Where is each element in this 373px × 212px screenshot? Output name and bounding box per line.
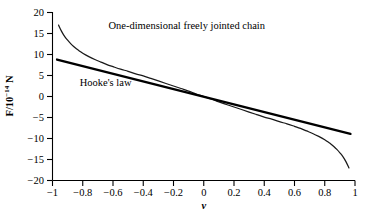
y-tick-label: 0 [39, 91, 44, 102]
y-tick-label: −20 [28, 175, 44, 186]
x-tick-label: −0.8 [73, 187, 92, 198]
y-tick-label: −10 [28, 133, 44, 144]
y-axis-title-suffix: N [4, 75, 15, 86]
chart-figure: 20 15 10 5 0 −5 −10 −15 −20 −1 [0, 0, 373, 212]
x-tick-label: 0.4 [258, 187, 272, 198]
x-tick-label: −0.4 [134, 187, 154, 198]
y-tick-label: 20 [34, 7, 45, 18]
x-tick-label: 0.6 [288, 187, 301, 198]
y-axis-title-prefix: F/10 [4, 97, 15, 117]
chart-svg: 20 15 10 5 0 −5 −10 −15 −20 −1 [0, 0, 373, 212]
x-tick-label: −0.2 [164, 187, 183, 198]
y-tick-label: 5 [39, 70, 44, 81]
x-axis-title: v [201, 200, 206, 211]
annotation-hookes-law: Hooke's law [80, 77, 132, 88]
x-tick-label: −1 [47, 187, 58, 198]
annotation-freely-jointed-chain: One-dimensional freely jointed chain [108, 20, 265, 31]
y-tick-label: 10 [34, 49, 45, 60]
y-tick-label: −15 [28, 154, 44, 165]
x-tick-label: −0.6 [103, 187, 122, 198]
x-tick-label: 0.2 [227, 187, 240, 198]
y-axis-title-exponent: −14 [3, 85, 11, 96]
x-tick-label: 0.8 [318, 187, 331, 198]
x-tick-label: 0 [201, 187, 206, 198]
x-tick-label: 1 [352, 187, 357, 198]
y-tick-label: 15 [34, 28, 45, 39]
y-tick-label: −5 [33, 112, 44, 123]
